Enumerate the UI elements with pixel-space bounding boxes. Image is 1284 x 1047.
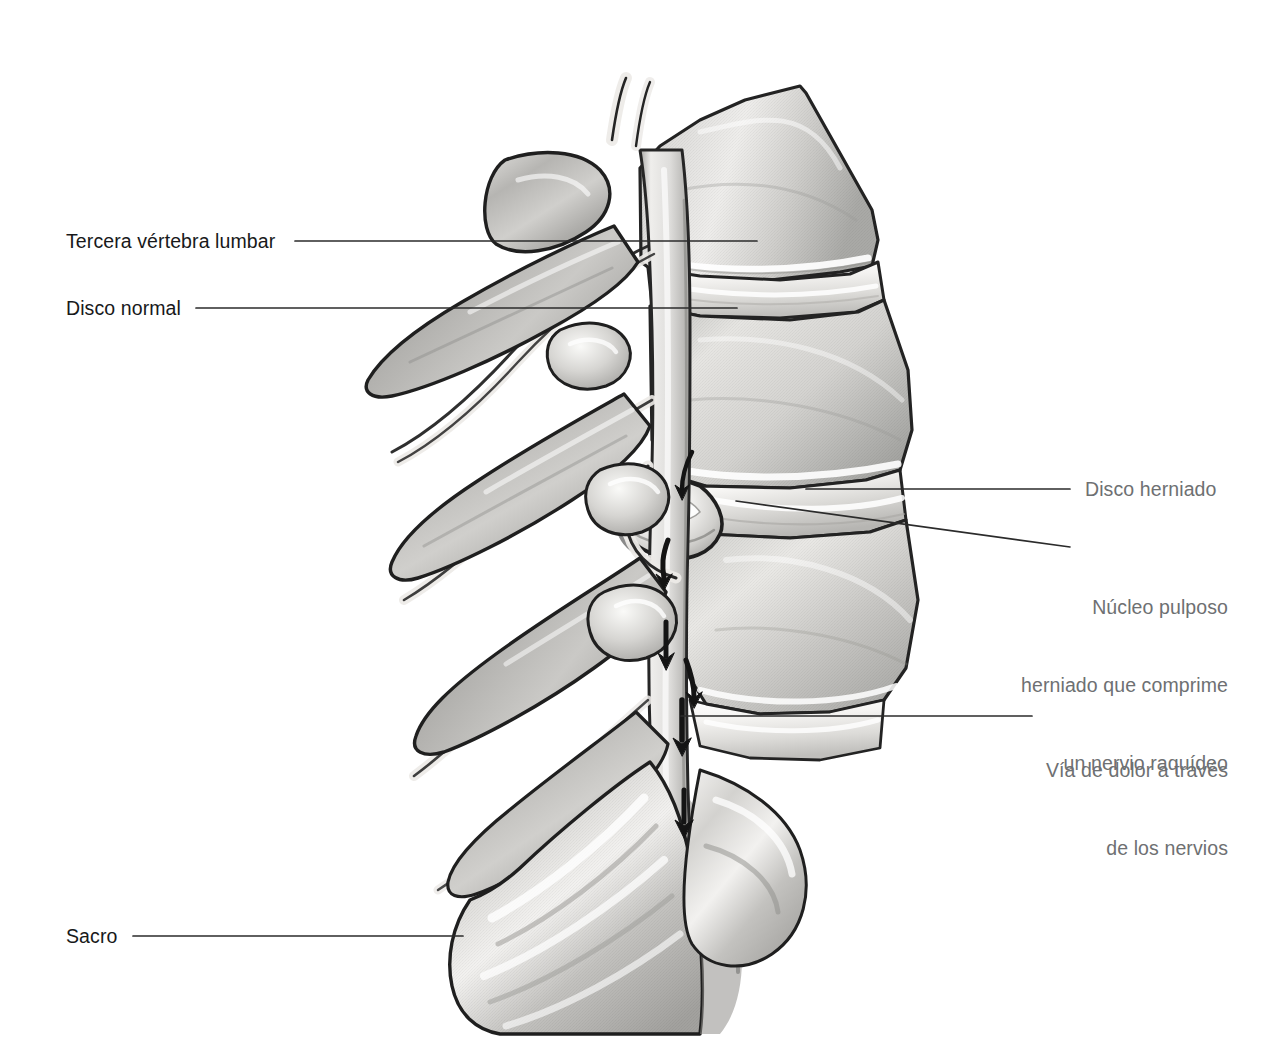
label-via-de-dolor-line1: Vía de dolor a través — [808, 757, 1228, 783]
label-disco-normal: Disco normal — [66, 295, 181, 321]
label-nucleo-pulposo-line2: herniado que comprime — [808, 672, 1228, 698]
facet-joint-1 — [547, 323, 630, 389]
label-nucleo-pulposo-line1: Núcleo pulposo — [808, 594, 1228, 620]
anatomical-illustration — [0, 0, 1284, 1047]
label-via-de-dolor: Vía de dolor a través de los nervios — [808, 705, 1228, 887]
facet-joint-3 — [588, 585, 677, 660]
facet-joint-2 — [586, 464, 669, 535]
label-disco-herniado: Disco herniado — [1085, 476, 1216, 502]
label-via-de-dolor-line2: de los nervios — [808, 835, 1228, 861]
label-tercera-vertebra-lumbar: Tercera vértebra lumbar — [66, 228, 275, 254]
label-sacro: Sacro — [66, 923, 117, 949]
